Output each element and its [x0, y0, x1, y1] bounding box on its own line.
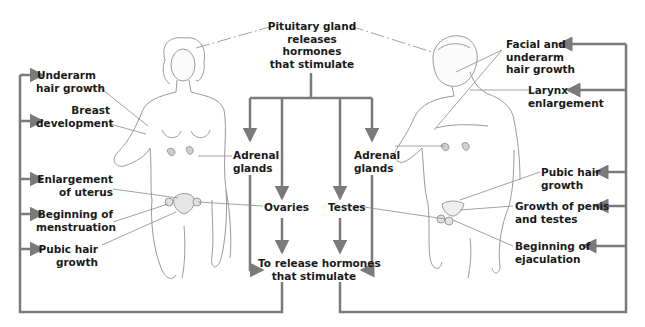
- label-line: hormones: [260, 45, 364, 58]
- female-effect-breast-development: Breast development: [36, 104, 110, 129]
- label-line: Facial and: [506, 38, 575, 51]
- label-line: Breast: [36, 104, 110, 117]
- label-line: enlargement: [528, 97, 604, 110]
- label-line: Pubic hair: [36, 243, 98, 256]
- female-effect-underarm-hair: Underarm hair growth: [36, 69, 96, 94]
- label-line: Growth of penis: [515, 200, 609, 213]
- label-line: Beginning of: [515, 240, 590, 253]
- label-line: Larynx: [528, 84, 604, 97]
- label-line: Adrenal: [233, 149, 279, 162]
- male-adrenal-glands-label: Adrenal glands: [354, 149, 400, 174]
- label-line: growth: [541, 179, 601, 192]
- label-line: underarm: [506, 51, 575, 64]
- release-hormones-label: To release hormones that stimulate: [258, 257, 370, 282]
- label-line: Pituitary gland: [260, 20, 364, 33]
- label-line: glands: [233, 162, 279, 175]
- label-line: To release hormones: [258, 257, 370, 270]
- label-line: Underarm: [36, 69, 96, 82]
- label-line: development: [36, 117, 110, 130]
- label-line: ejaculation: [515, 253, 590, 266]
- label-line: Adrenal: [354, 149, 400, 162]
- label-line: menstruation: [36, 221, 113, 234]
- label-line: glands: [354, 162, 400, 175]
- label-line: Pubic hair: [541, 166, 601, 179]
- label-line: hair growth: [36, 82, 96, 95]
- male-effect-ejaculation: Beginning of ejaculation: [515, 240, 590, 265]
- puberty-hormone-diagram: Pituitary gland releases hormones that s…: [0, 0, 645, 327]
- label-line: releases: [260, 33, 364, 46]
- female-effect-pubic-hair: Pubic hair growth: [36, 243, 98, 268]
- label-line: Beginning of: [36, 208, 113, 221]
- label-line: growth: [36, 256, 98, 269]
- ovaries-label: Ovaries: [264, 201, 309, 214]
- label-line: that stimulate: [260, 58, 364, 71]
- label-line: that stimulate: [258, 270, 370, 283]
- female-effect-menstruation: Beginning of menstruation: [36, 208, 113, 233]
- label-line: hair growth: [506, 63, 575, 76]
- female-adrenal-glands-label: Adrenal glands: [233, 149, 279, 174]
- testes-label: Testes: [328, 201, 366, 214]
- pituitary-gland-label: Pituitary gland releases hormones that s…: [260, 20, 364, 70]
- male-effect-pubic-hair: Pubic hair growth: [541, 166, 601, 191]
- label-line: and testes: [515, 213, 609, 226]
- male-effect-penis-testes: Growth of penis and testes: [515, 200, 609, 225]
- female-effect-uterus: Enlargement of uterus: [36, 173, 113, 198]
- male-effect-facial-underarm-hair: Facial and underarm hair growth: [506, 38, 575, 76]
- label-line: of uterus: [36, 186, 113, 199]
- label-line: Enlargement: [36, 173, 113, 186]
- male-effect-larynx: Larynx enlargement: [528, 84, 604, 109]
